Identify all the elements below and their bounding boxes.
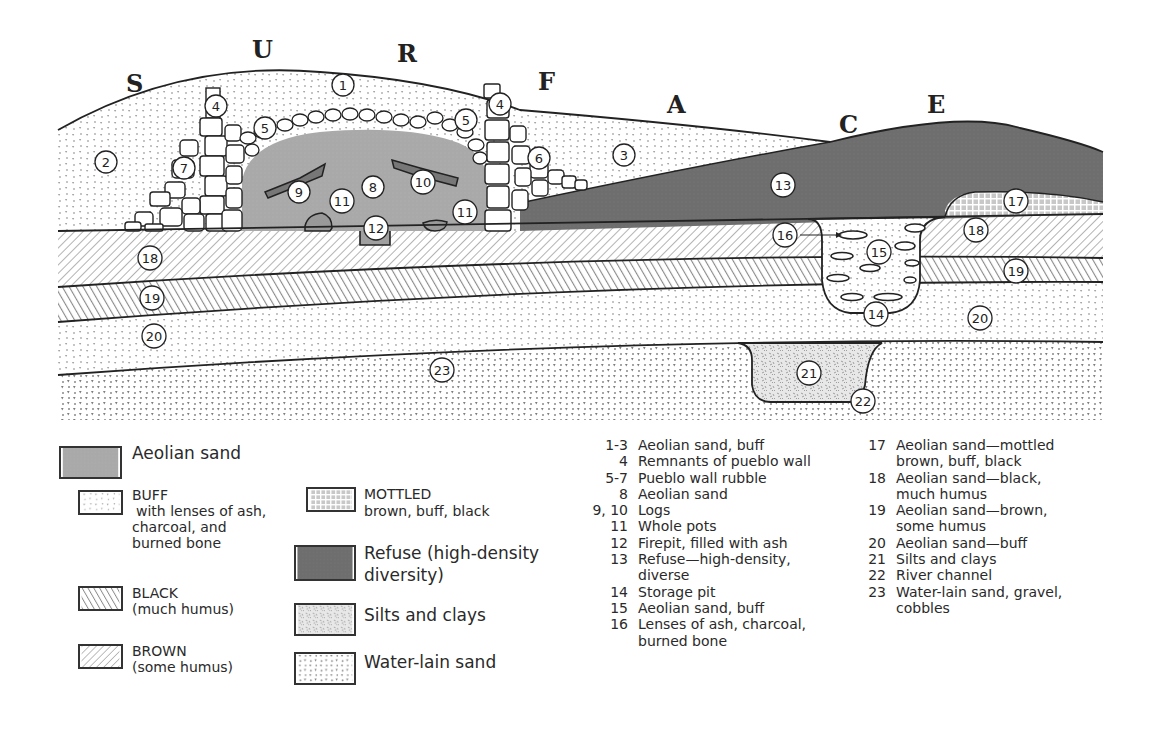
svg-text:22: 22 [855,394,872,409]
marker-10: 10 [411,170,435,194]
svg-text:9: 9 [295,185,303,200]
svg-text:23: 23 [434,363,451,378]
svg-text:11: 11 [457,205,474,220]
svg-text:1: 1 [339,78,347,93]
swatch-brown [78,644,123,669]
key-column-1: 1-3Aeolian sand, buff 4Remnants of puebl… [588,437,811,649]
marker-8: 8 [362,176,384,198]
marker-20-left: 20 [142,324,166,348]
svg-text:F: F [538,67,555,96]
svg-text:A: A [666,90,686,119]
legend-black-desc: (much humus) [132,601,234,617]
stratigraphic-cross-section: S U R F A C E 1 2 3 4 4 5 5 6 7 8 9 10 1… [0,0,1167,440]
svg-text:14: 14 [868,307,885,322]
swatch-refuse [294,545,356,581]
marker-11-right: 11 [453,200,477,224]
key-item: 8Aeolian sand [588,486,811,502]
svg-text:17: 17 [1008,194,1025,209]
svg-text:8: 8 [369,180,377,195]
key-item: 11Whole pots [588,518,811,534]
swatch-aeolian-sand [59,446,122,479]
swatch-mottled [306,487,356,512]
svg-text:15: 15 [871,245,888,260]
svg-text:E: E [927,90,945,119]
marker-4-right: 4 [489,93,511,115]
svg-text:10: 10 [415,175,432,190]
swatch-buff [78,490,123,515]
svg-text:3: 3 [620,148,628,163]
marker-5-left: 5 [254,117,276,139]
key-item: 21Silts and clays [846,551,1062,567]
swatch-water-lain [294,652,356,685]
key-item: 18Aeolian sand—black, much humus [846,470,1062,503]
swatch-black [78,586,123,611]
key-item: 4Remnants of pueblo wall [588,453,811,469]
legend-brown-title: BROWN [132,643,187,659]
marker-18-left: 18 [138,246,162,270]
marker-22: 22 [851,389,875,413]
svg-text:13: 13 [775,178,792,193]
key-item: 13Refuse—high-density, diverse [588,551,811,584]
key-item: 1-3Aeolian sand, buff [588,437,811,453]
svg-text:12: 12 [368,221,385,236]
marker-16: 16 [773,223,797,247]
marker-19-right: 19 [1004,259,1028,283]
svg-text:6: 6 [535,151,543,166]
legend-buff-desc2: charcoal, and [132,519,227,535]
svg-text:20: 20 [146,329,163,344]
marker-5-right: 5 [455,109,477,131]
svg-text:19: 19 [144,291,161,306]
marker-11-left: 11 [330,189,354,213]
key-item: 5-7Pueblo wall rubble [588,470,811,486]
legend-mottled-title: MOTTLED [364,486,431,502]
marker-3: 3 [613,144,635,166]
marker-4-left: 4 [205,95,227,117]
marker-20-right: 20 [968,306,992,330]
svg-text:18: 18 [142,251,159,266]
svg-text:C: C [839,110,858,139]
svg-text:4: 4 [496,97,504,112]
marker-21: 21 [797,361,821,385]
svg-text:S: S [126,69,143,98]
legend-black-title: BLACK [132,585,178,601]
key-item: 23Water-lain sand, gravel, cobbles [846,584,1062,617]
swatch-silts [294,603,356,636]
marker-13: 13 [771,173,795,197]
marker-14: 14 [864,302,888,326]
legend-buff-desc: with lenses of ash, [136,503,266,519]
legend-water-lain: Water-lain sand [364,652,496,672]
marker-19-left: 19 [140,286,164,310]
key-item: 20Aeolian sand—buff [846,535,1062,551]
legend-brown-desc: (some humus) [132,659,233,675]
svg-text:21: 21 [801,366,818,381]
legend-refuse-2: diversity) [364,565,444,585]
svg-text:2: 2 [102,155,110,170]
svg-text:5: 5 [261,121,269,136]
key-item: 15Aeolian sand, buff [588,600,811,616]
marker-1: 1 [332,74,354,96]
svg-text:19: 19 [1008,264,1025,279]
legend-silts: Silts and clays [364,605,486,625]
key-item: 19Aeolian sand—brown, some humus [846,502,1062,535]
svg-text:R: R [397,39,418,68]
marker-23: 23 [430,358,454,382]
key-column-2: 17Aeolian sand—mottled brown, buff, blac… [846,437,1062,616]
svg-text:5: 5 [462,113,470,128]
legend-refuse: Refuse (high-density [364,543,539,563]
key-item: 9, 10Logs [588,502,811,518]
legend-aeolian-sand: Aeolian sand [132,443,241,463]
svg-text:4: 4 [212,99,220,114]
marker-12: 12 [364,216,388,240]
svg-text:11: 11 [334,194,351,209]
marker-2: 2 [95,151,117,173]
svg-text:16: 16 [777,228,794,243]
svg-text:18: 18 [968,223,985,238]
marker-18-right: 18 [964,218,988,242]
marker-15: 15 [867,240,891,264]
marker-17: 17 [1004,189,1028,213]
key-item: 14Storage pit [588,584,811,600]
svg-text:7: 7 [180,161,188,176]
marker-6: 6 [528,147,550,169]
legend-buff-desc3: burned bone [132,535,221,551]
svg-text:20: 20 [972,311,989,326]
